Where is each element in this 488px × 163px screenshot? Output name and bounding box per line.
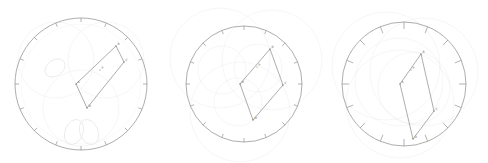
tick-mark-8 <box>425 135 428 141</box>
construction-circle-1 <box>18 22 94 98</box>
tick-mark-6 <box>138 108 142 110</box>
interior-point-dot <box>99 69 100 70</box>
curve-loop-2 <box>61 117 87 148</box>
panel-3: ABCDP <box>325 0 488 163</box>
interior-point-label: P <box>101 66 103 70</box>
vertex-dot-B <box>269 48 270 49</box>
tick-mark-7 <box>443 123 448 128</box>
interior-point-label: P <box>412 66 414 70</box>
vertex-dot-A <box>75 83 76 84</box>
vertex-dot-D <box>252 119 253 120</box>
tick-mark-10 <box>380 135 383 141</box>
interior-point-dot <box>410 69 411 70</box>
construction-circle-1 <box>170 8 270 108</box>
construction-circle-4 <box>355 38 443 126</box>
tick-mark-16 <box>56 23 58 27</box>
tick-mark-11 <box>360 123 365 128</box>
vertex-dot-B <box>420 53 421 54</box>
tick-mark-11 <box>34 128 37 131</box>
panel-1-canvas: ABCDP <box>0 0 163 163</box>
vertex-dot-D <box>86 107 87 108</box>
curve-loop-1 <box>41 55 68 81</box>
vertex-label-O: O <box>242 80 245 84</box>
tick-mark-3 <box>443 40 448 45</box>
rhombus <box>240 49 283 120</box>
tick-mark-11 <box>203 122 206 125</box>
tick-mark-8 <box>265 134 267 138</box>
construction-circle-2 <box>222 10 322 110</box>
vertex-dot-D <box>412 138 413 139</box>
vertex-label-B: B <box>423 50 425 54</box>
tick-mark-6 <box>294 105 298 107</box>
vertex-label-B: B <box>272 45 274 49</box>
vertex-label-D: D <box>89 104 92 108</box>
tick-mark-3 <box>282 43 285 46</box>
tick-mark-12 <box>20 108 24 110</box>
panel-2-canvas: OBCDP <box>163 0 326 163</box>
tick-mark-6 <box>455 105 461 108</box>
vertex-label-A: A <box>402 80 405 84</box>
parallelogram <box>76 46 124 108</box>
tick-mark-15 <box>34 37 37 40</box>
panel-1-interior-point: P <box>99 66 103 71</box>
tick-mark-16 <box>222 30 224 34</box>
tick-mark-14 <box>20 59 24 61</box>
panel-3-canvas: ABCDP <box>325 0 488 163</box>
tick-mark-7 <box>282 122 285 125</box>
construction-circle-3 <box>190 62 290 162</box>
tick-mark-3 <box>125 37 128 40</box>
tick-mark-2 <box>265 30 267 34</box>
curve-loop-3 <box>76 117 102 148</box>
tick-mark-10 <box>222 134 224 138</box>
panel-1-tick-marks <box>15 18 147 150</box>
vertex-dot-B <box>115 45 116 46</box>
construction-circle-2 <box>68 22 144 98</box>
tick-mark-10 <box>56 141 58 145</box>
construction-circle-4 <box>21 24 141 144</box>
panel-1-construction-circles <box>18 22 144 146</box>
tick-mark-12 <box>347 105 353 108</box>
tick-mark-15 <box>360 40 365 45</box>
panel-3-construction-circles <box>332 12 478 158</box>
interior-point-dot <box>256 66 257 67</box>
parallelogram <box>400 54 434 139</box>
vertex-dot-A <box>399 83 400 84</box>
tick-mark-4 <box>294 62 298 64</box>
construction-circle-3 <box>346 50 454 158</box>
vertex-dot-C <box>433 110 434 111</box>
vertex-dot-O <box>239 83 240 84</box>
panel-1-vertices: ABCD <box>75 42 127 109</box>
panel-2-construction-circles <box>170 8 322 162</box>
tick-mark-8 <box>105 141 107 145</box>
tick-mark-7 <box>125 128 128 131</box>
tick-mark-16 <box>380 27 383 33</box>
tick-mark-14 <box>190 62 194 64</box>
panel-1: ABCDP <box>0 0 163 163</box>
vertex-dot-C <box>123 61 124 62</box>
tick-mark-4 <box>138 59 142 61</box>
vertex-label-D: D <box>415 135 418 139</box>
tick-mark-12 <box>190 105 194 107</box>
tick-mark-4 <box>455 60 461 63</box>
tick-mark-2 <box>105 23 107 27</box>
vertex-label-C: C <box>126 58 128 62</box>
construction-circle-2 <box>370 18 478 126</box>
construction-circle-3 <box>43 70 119 146</box>
vertex-dot-C <box>282 84 283 85</box>
construction-circle-5 <box>234 44 282 92</box>
vertex-label-C: C <box>285 81 287 85</box>
panel-3-tick-marks <box>342 22 466 146</box>
panel-2: OBCDP <box>163 0 326 163</box>
interior-point-label: P <box>258 63 260 67</box>
tick-mark-2 <box>425 27 428 33</box>
tick-mark-14 <box>347 60 353 63</box>
construction-circle-5 <box>378 52 450 124</box>
tick-mark-15 <box>203 43 206 46</box>
vertex-label-B: B <box>118 42 120 46</box>
vertex-label-C: C <box>436 107 438 111</box>
figure-root: ABCDP OBCDP ABCDP <box>0 0 488 163</box>
